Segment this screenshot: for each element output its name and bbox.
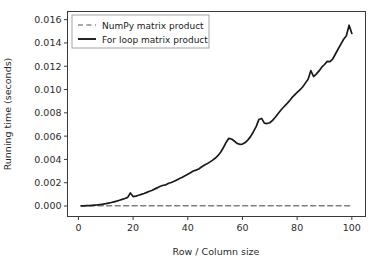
legend-label-numpy: NumPy matrix product xyxy=(102,21,204,31)
x-tick-label: 80 xyxy=(291,222,303,233)
chart-figure: 0.0000.0020.0040.0060.0080.0100.0120.014… xyxy=(0,0,392,262)
legend-label-forloop: For loop matrix product xyxy=(102,35,208,45)
x-tick-label: 60 xyxy=(236,222,248,233)
x-tick-label: 40 xyxy=(182,222,194,233)
y-tick-label: 0.000 xyxy=(34,200,61,211)
chart-legend: NumPy matrix product For loop matrix pro… xyxy=(72,15,209,48)
y-tick-label: 0.008 xyxy=(34,107,61,118)
y-tick-label: 0.002 xyxy=(34,177,61,188)
line-chart: 0.0000.0020.0040.0060.0080.0100.0120.014… xyxy=(0,0,392,262)
y-tick-label: 0.014 xyxy=(34,37,61,48)
x-axis-title: Row / Column size xyxy=(173,246,260,257)
y-tick-label: 0.004 xyxy=(34,154,61,165)
x-tick-label: 100 xyxy=(343,222,361,233)
y-tick-label: 0.010 xyxy=(34,84,61,95)
x-tick-label: 0 xyxy=(75,222,81,233)
y-tick-label: 0.016 xyxy=(34,14,61,25)
y-tick-label: 0.012 xyxy=(34,61,61,72)
y-tick-label: 0.006 xyxy=(34,131,61,142)
y-axis-title: Running time (seconds) xyxy=(2,58,13,171)
x-tick-label: 20 xyxy=(127,222,139,233)
